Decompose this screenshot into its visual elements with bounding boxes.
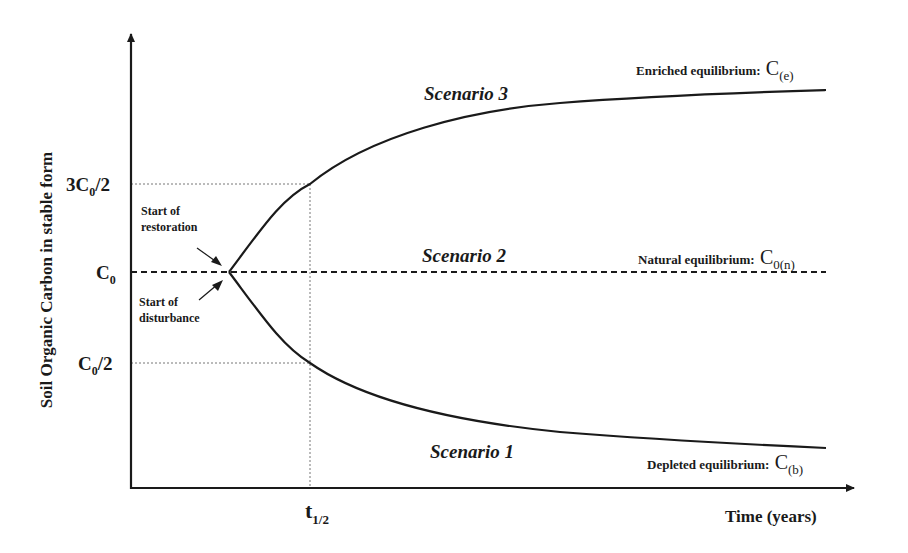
depleted-equilibrium-label: Depleted equilibrium: C(b) bbox=[647, 451, 803, 477]
y-tick-c0-2: C0/2 bbox=[78, 353, 113, 378]
scenario-1-label: Scenario 1 bbox=[430, 441, 514, 462]
start-restoration-label: Start of restoration bbox=[141, 204, 198, 234]
scenario-1-curve bbox=[229, 272, 826, 448]
x-tick-t-half: t1/2 bbox=[305, 498, 329, 527]
scenario-3-label: Scenario 3 bbox=[424, 83, 508, 104]
natural-equilibrium-label: Natural equilibrium: C0(n) bbox=[638, 246, 795, 272]
y-tick-3c0-2: 3C0/2 bbox=[66, 174, 110, 199]
y-axis-title: Soil Organic Carbon in stable form bbox=[37, 152, 56, 408]
x-axis-title: Time (years) bbox=[725, 507, 817, 526]
y-tick-c0: C0 bbox=[96, 262, 116, 287]
soil-carbon-diagram: Soil Organic Carbon in stable form 3C0/2… bbox=[0, 0, 908, 553]
scenario-3-curve bbox=[229, 90, 826, 272]
disturbance-arrowhead-icon bbox=[212, 280, 223, 291]
enriched-equilibrium-label: Enriched equilibrium: C(e) bbox=[636, 57, 794, 83]
start-disturbance-label: Start of disturbance bbox=[139, 295, 200, 325]
annotation-arrows bbox=[197, 248, 223, 300]
restoration-arrowhead-icon bbox=[211, 256, 222, 266]
scenario-2-label: Scenario 2 bbox=[422, 245, 506, 266]
